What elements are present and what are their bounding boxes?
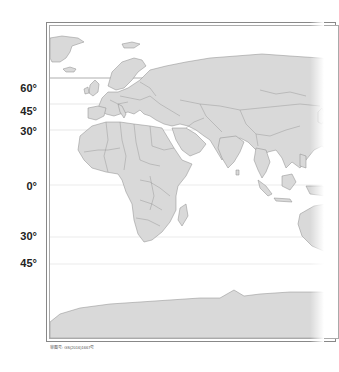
svalbard-landmass xyxy=(122,42,140,48)
sumatra-landmass xyxy=(258,180,272,196)
greenland-landmass xyxy=(50,36,84,62)
sri-lanka-landmass xyxy=(236,170,239,175)
right-edge-fade xyxy=(310,0,324,372)
iberia-landmass xyxy=(88,106,106,120)
madagascar-landmass xyxy=(178,204,188,226)
java-landmass xyxy=(274,198,292,202)
ireland-landmass xyxy=(84,87,89,94)
british-isles-landmass xyxy=(89,80,99,96)
antarctica-landmass xyxy=(50,290,324,338)
africa-landmass xyxy=(78,122,192,242)
borneo-landmass xyxy=(282,174,296,190)
india-landmass xyxy=(218,136,244,168)
map-approval-caption: 审图号: GS(2016)1667号 xyxy=(50,344,94,350)
iceland-landmass xyxy=(63,67,76,72)
philippines-landmass xyxy=(300,154,306,168)
